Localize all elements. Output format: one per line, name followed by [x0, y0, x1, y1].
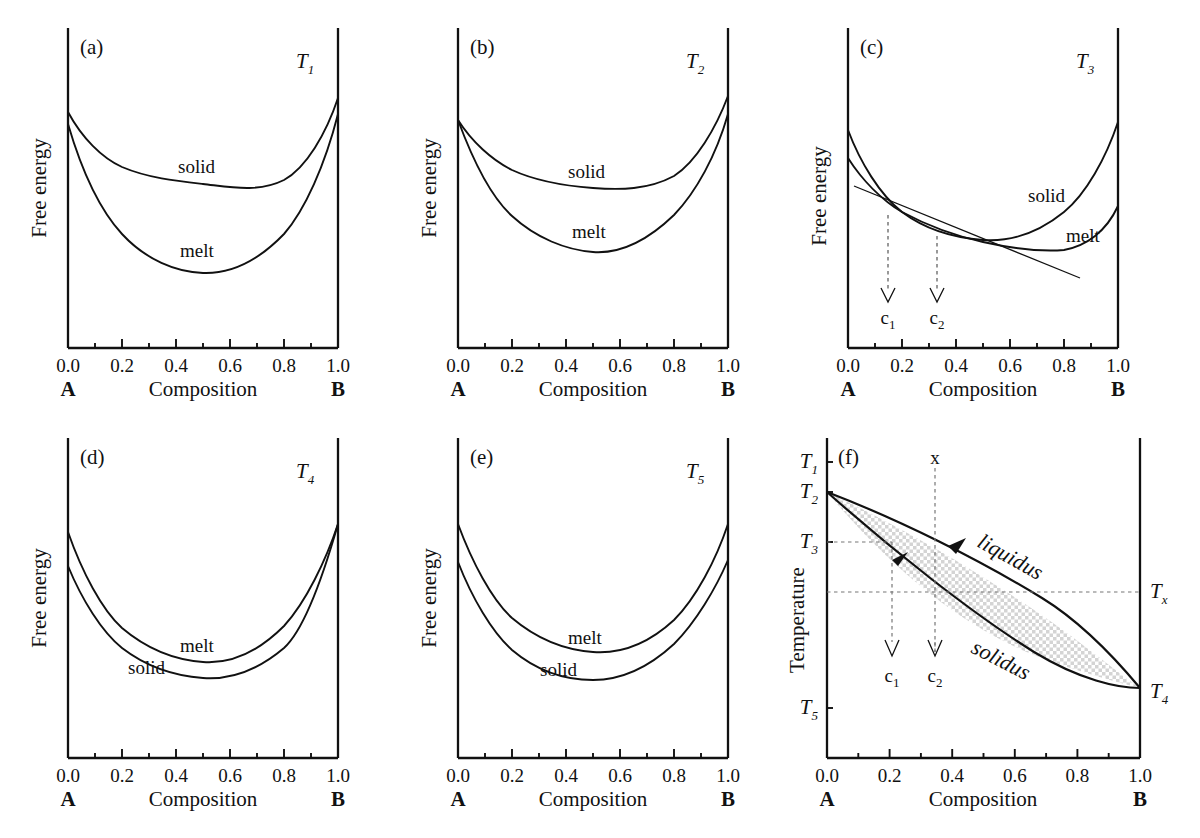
svg-text:1.0: 1.0 — [1106, 355, 1130, 376]
x-ticks — [68, 749, 338, 758]
y-axis-title: Free energy — [27, 548, 51, 648]
x-axis-left-end: A — [840, 377, 856, 401]
y-axis-title: Temperature — [785, 567, 809, 673]
curve-label-liquidus: liquidus — [974, 529, 1048, 585]
x-axis-title: Composition — [539, 787, 648, 811]
curve-label-solid: solid — [178, 156, 215, 177]
T1-label: T1 — [800, 449, 818, 477]
x-tick-labels: 0.0 0.2 0.4 0.6 0.8 1.0 — [446, 765, 740, 786]
temperature-label: T4 — [296, 459, 315, 487]
x-axis-title: Composition — [929, 787, 1038, 811]
curve-label-melt: melt — [568, 627, 602, 648]
x-tick-labels: 0.0 0.2 0.4 0.6 0.8 1.0 — [56, 355, 350, 376]
curve-label-solid: solid — [540, 659, 577, 680]
x-axis-title: Composition — [149, 787, 258, 811]
temperature-label: T3 — [1076, 49, 1095, 77]
svg-text:0.6: 0.6 — [218, 765, 242, 786]
svg-text:0.4: 0.4 — [940, 765, 964, 786]
temperature-label: T1 — [296, 49, 314, 77]
svg-text:0.6: 0.6 — [998, 355, 1022, 376]
svg-text:0.2: 0.2 — [110, 765, 134, 786]
c2-arrowhead-icon — [930, 288, 944, 302]
curve-label-melt: melt — [1066, 225, 1100, 246]
curve-solid — [458, 560, 728, 680]
panel-label: (f) — [838, 445, 859, 469]
x-axis-right-end: B — [1133, 787, 1147, 811]
svg-text:0.8: 0.8 — [662, 765, 686, 786]
svg-text:0.2: 0.2 — [878, 765, 902, 786]
panel-label: (c) — [860, 35, 883, 59]
x-axis-right-end: B — [721, 377, 735, 401]
svg-text:0.8: 0.8 — [662, 355, 686, 376]
y-axis-title: Free energy — [417, 548, 441, 648]
x-tick-labels: 0.0 0.2 0.4 0.6 0.8 1.0 — [815, 765, 1152, 786]
panel-c: c1 c2 (c) T3 solid melt 0.0 0.2 0.4 0.6 … — [780, 10, 1200, 420]
x-axis-right-end: B — [331, 377, 345, 401]
temperature-label: T2 — [686, 49, 705, 77]
T3-label: T3 — [800, 529, 819, 557]
svg-text:0.4: 0.4 — [554, 355, 578, 376]
c1-label: c1 — [881, 307, 896, 332]
x-axis-title: Composition — [149, 377, 258, 401]
svg-text:0.8: 0.8 — [1066, 765, 1090, 786]
c2-label: c2 — [930, 307, 945, 332]
panel-label: (b) — [470, 35, 495, 59]
svg-text:0.4: 0.4 — [944, 355, 968, 376]
panel-a-svg: (a) T1 solid melt 0.0 0.2 0.4 0.6 0.8 1.… — [0, 10, 400, 420]
T5-label: T5 — [800, 695, 819, 723]
x-ticks — [848, 339, 1118, 348]
Tx-label: Tx — [1150, 579, 1168, 607]
x-ticks — [458, 749, 728, 758]
svg-text:0.6: 0.6 — [1003, 765, 1027, 786]
curve-label-melt: melt — [180, 240, 214, 261]
panel-label: (a) — [80, 35, 103, 59]
svg-text:0.2: 0.2 — [110, 355, 134, 376]
svg-text:0.4: 0.4 — [164, 765, 188, 786]
x-axis-left-end: A — [450, 787, 466, 811]
panel-c-svg: c1 c2 (c) T3 solid melt 0.0 0.2 0.4 0.6 … — [780, 10, 1200, 420]
panel-a: (a) T1 solid melt 0.0 0.2 0.4 0.6 0.8 1.… — [0, 10, 400, 420]
y-axis-title: Free energy — [807, 146, 831, 246]
panel-d: (d) T4 melt solid 0.0 0.2 0.4 0.6 0.8 1.… — [0, 420, 400, 830]
bulk-composition-label: x — [930, 447, 940, 468]
c1-arrowhead-icon — [881, 288, 895, 302]
svg-text:0.0: 0.0 — [836, 355, 860, 376]
panel-e-svg: (e) T5 melt solid 0.0 0.2 0.4 0.6 0.8 1.… — [390, 420, 790, 830]
x-tick-labels: 0.0 0.2 0.4 0.6 0.8 1.0 — [56, 765, 350, 786]
svg-text:0.2: 0.2 — [890, 355, 914, 376]
panel-b: (b) T2 solid melt 0.0 0.2 0.4 0.6 0.8 1.… — [390, 10, 790, 420]
curve-label-solid: solid — [568, 161, 605, 182]
curve-label-solid: solid — [128, 657, 165, 678]
x-axis-right-end: B — [721, 787, 735, 811]
svg-text:0.0: 0.0 — [56, 355, 80, 376]
panel-label: (d) — [80, 445, 105, 469]
x-axis-title: Composition — [539, 377, 648, 401]
x-ticks — [68, 339, 338, 348]
y-axis-title: Free energy — [27, 138, 51, 238]
svg-text:0.0: 0.0 — [446, 355, 470, 376]
x-axis-right-end: B — [1111, 377, 1125, 401]
x-axis-left-end: A — [60, 377, 76, 401]
svg-text:1.0: 1.0 — [1128, 765, 1152, 786]
c1-label: c1 — [885, 665, 900, 690]
curve-label-melt: melt — [572, 221, 606, 242]
temperature-label: T5 — [686, 459, 705, 487]
c1-arrowhead-icon — [885, 640, 899, 656]
svg-text:1.0: 1.0 — [716, 355, 740, 376]
svg-text:0.4: 0.4 — [164, 355, 188, 376]
panel-label: (e) — [470, 445, 493, 469]
svg-text:0.2: 0.2 — [500, 765, 524, 786]
svg-text:0.8: 0.8 — [272, 765, 296, 786]
x-axis-left-end: A — [450, 377, 466, 401]
x-tick-labels: 0.0 0.2 0.4 0.6 0.8 1.0 — [446, 355, 740, 376]
x-axis-title: Composition — [929, 377, 1038, 401]
svg-text:1.0: 1.0 — [326, 765, 350, 786]
svg-text:0.0: 0.0 — [815, 765, 839, 786]
svg-text:0.6: 0.6 — [608, 355, 632, 376]
svg-text:0.6: 0.6 — [608, 765, 632, 786]
svg-text:0.8: 0.8 — [272, 355, 296, 376]
x-ticks — [458, 339, 728, 348]
panel-f-svg: x c1 c2 liquidus solidus T1 T2 T3 T5 Tx … — [780, 420, 1200, 830]
svg-text:0.0: 0.0 — [56, 765, 80, 786]
y-axis-title: Free energy — [417, 138, 441, 238]
